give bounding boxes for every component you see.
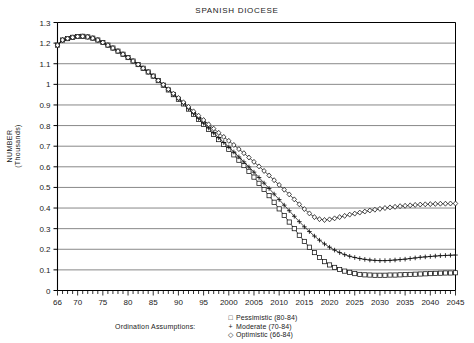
marker-square: [433, 271, 437, 275]
marker-square: [398, 273, 402, 277]
marker-diamond: [232, 142, 236, 147]
legend-marker-icon: ◇: [225, 331, 236, 340]
marker-diamond: [453, 201, 457, 206]
marker-square: [252, 175, 256, 179]
marker-plus: [388, 258, 393, 263]
x-tick-label: 2005: [245, 298, 263, 307]
x-tick-label: 66: [53, 298, 62, 307]
marker-plus: [383, 258, 388, 263]
marker-square: [393, 273, 397, 277]
y-tick-label: 1.1: [39, 60, 51, 69]
marker-plus: [347, 254, 352, 259]
x-tick-label: 2045: [447, 298, 465, 307]
x-tick-label: 85: [149, 298, 158, 307]
marker-diamond: [423, 202, 427, 207]
gridlines: [58, 23, 456, 270]
marker-diamond: [438, 201, 442, 206]
x-tick-label: 2020: [321, 298, 339, 307]
marker-square: [413, 272, 417, 276]
marker-diamond: [222, 134, 226, 139]
marker-square: [373, 273, 377, 277]
marker-square: [453, 271, 457, 275]
marker-square: [257, 181, 261, 185]
marker-plus: [337, 250, 342, 255]
marker-diamond: [317, 217, 321, 222]
data-series-layer: [55, 34, 458, 278]
legend-item-label: Pessimistic (80-84): [236, 314, 297, 323]
marker-diamond: [408, 203, 412, 208]
marker-square: [353, 271, 357, 275]
marker-diamond: [322, 217, 326, 222]
marker-diamond: [418, 202, 422, 207]
x-tick-label: 2030: [371, 298, 389, 307]
marker-plus: [357, 256, 362, 261]
marker-diamond: [443, 201, 447, 206]
y-tick-label: 0.7: [39, 142, 51, 151]
marker-square: [302, 239, 306, 243]
marker-plus: [373, 258, 378, 263]
marker-square: [388, 273, 392, 277]
marker-diamond: [332, 216, 336, 221]
marker-diamond: [393, 204, 397, 209]
marker-square: [383, 273, 387, 277]
marker-diamond: [358, 210, 362, 215]
x-tick-label: 2010: [270, 298, 288, 307]
x-tick-label: 2040: [421, 298, 439, 307]
marker-square: [322, 260, 326, 264]
marker-square: [438, 271, 442, 275]
axis-lines: [58, 23, 456, 291]
marker-diamond: [388, 205, 392, 210]
marker-square: [423, 272, 427, 276]
marker-plus: [368, 258, 373, 263]
marker-plus: [448, 253, 453, 258]
marker-diamond: [227, 138, 231, 143]
legend-title: Ordination Assumptions:: [115, 323, 195, 332]
marker-diamond: [348, 212, 352, 217]
marker-diamond: [383, 206, 387, 211]
x-tick-labels: 6670758085909520002005201020152020202520…: [53, 298, 465, 307]
marker-diamond: [363, 209, 367, 214]
marker-square: [327, 263, 331, 267]
marker-square: [408, 272, 412, 276]
x-tick-label: 75: [98, 298, 107, 307]
y-tick-label: 0: [46, 287, 51, 296]
marker-square: [282, 213, 286, 217]
marker-plus: [398, 257, 403, 262]
marker-plus: [443, 253, 448, 258]
marker-plus: [393, 258, 398, 263]
marker-square: [317, 255, 321, 259]
marker-plus: [433, 254, 438, 259]
marker-square: [297, 233, 301, 237]
marker-square: [378, 273, 382, 277]
marker-square: [338, 267, 342, 271]
y-tick-label: 1: [46, 80, 51, 89]
marker-diamond: [353, 211, 357, 216]
marker-plus: [403, 257, 408, 262]
y-tick-label: 0.1: [39, 266, 51, 275]
legend-item[interactable]: ◇Optimistic (66-84): [225, 331, 297, 340]
x-tick-label: 90: [174, 298, 183, 307]
marker-diamond: [217, 130, 221, 135]
marker-square: [448, 271, 452, 275]
legend-item[interactable]: □Pessimistic (80-84): [225, 314, 297, 323]
marker-diamond: [337, 215, 341, 220]
marker-square: [358, 272, 362, 276]
marker-diamond: [413, 202, 417, 207]
marker-square: [348, 270, 352, 274]
legend-item-label: Moderate (70-84): [236, 323, 292, 332]
y-tick-label: 0.4: [39, 204, 51, 213]
marker-plus: [352, 255, 357, 260]
marker-diamond: [403, 203, 407, 208]
marker-plus: [423, 255, 428, 260]
x-tick-label: 2035: [396, 298, 414, 307]
x-tick-label: 70: [73, 298, 82, 307]
y-tick-label: 0.6: [39, 163, 51, 172]
marker-square: [428, 271, 432, 275]
legend-item[interactable]: +Moderate (70-84): [225, 323, 297, 332]
marker-diamond: [433, 201, 437, 206]
legend-marker-icon: □: [225, 314, 236, 323]
marker-plus: [438, 253, 443, 258]
marker-diamond: [237, 147, 241, 152]
series-line: [58, 36, 456, 275]
marker-plus: [418, 255, 423, 260]
